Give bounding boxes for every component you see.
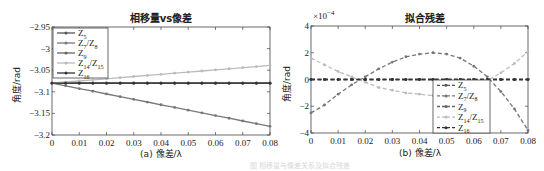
data-marker [486, 75, 489, 78]
x-tick-label: 0.04 [153, 138, 169, 148]
data-marker [214, 82, 217, 85]
x-tick-label: 0.02 [99, 138, 115, 148]
y-tick-label: −3.15 [29, 108, 50, 118]
data-marker [241, 66, 244, 69]
faint-caption: 图 相移量与像差关系及拟合残差 [250, 161, 350, 170]
data-marker [513, 78, 516, 81]
figure: 相移量vs像差 −2.95−3−3.05−3.1−3.15−3.2 00.010… [0, 0, 544, 171]
data-marker [132, 98, 135, 101]
data-marker [119, 95, 122, 98]
data-marker [200, 70, 203, 73]
data-marker [350, 75, 353, 78]
data-marker [200, 111, 203, 114]
right-series [310, 50, 530, 132]
data-marker [418, 93, 421, 96]
data-marker [499, 71, 502, 74]
data-marker [323, 63, 326, 66]
data-marker [187, 82, 190, 85]
data-marker [255, 65, 258, 68]
y-tick-label: −2.95 [29, 22, 50, 32]
data-marker [527, 50, 530, 53]
data-marker [173, 72, 176, 75]
data-marker [377, 86, 380, 89]
x-tick-label: 0.02 [357, 136, 373, 146]
data-marker [214, 114, 217, 117]
data-marker [160, 73, 163, 76]
data-marker [459, 57, 462, 60]
data-marker [173, 106, 176, 109]
data-marker [91, 90, 94, 93]
data-marker [269, 64, 272, 67]
data-marker [350, 78, 353, 81]
data-marker [187, 71, 190, 74]
series-line-z7-z8 [311, 53, 528, 131]
x-tick-label: 0.07 [493, 136, 509, 146]
y-tick-label: −3.05 [29, 65, 50, 75]
data-marker [377, 67, 380, 70]
data-marker [472, 65, 475, 68]
right-chart-title: 拟合残差 [405, 12, 445, 24]
data-marker [391, 78, 394, 81]
data-marker [310, 78, 313, 81]
x-tick-label: 0.06 [208, 138, 224, 148]
data-marker [310, 112, 313, 115]
left-chart: 相移量vs像差 −2.95−3−3.05−3.1−3.15−3.2 00.010… [11, 12, 278, 159]
data-marker [255, 122, 258, 125]
x-tick-label: 0.01 [330, 136, 346, 146]
x-tick-label: 0.08 [262, 138, 278, 148]
x-tick-label: 0 [309, 136, 314, 146]
left-x-axis-label: (a) 像差/λ [140, 148, 182, 159]
data-marker [527, 78, 530, 81]
data-marker [391, 89, 394, 92]
data-marker [350, 83, 353, 86]
right-chart: 拟合残差 ×10−4 420−2−4 00.010.020.030.040.05… [281, 9, 536, 158]
data-marker [255, 82, 258, 85]
data-marker [228, 117, 231, 120]
data-marker [132, 75, 135, 78]
data-marker [377, 78, 380, 81]
y-tick-label: 0 [305, 75, 310, 85]
x-tick-label: 0.03 [385, 136, 401, 146]
x-tick-label: 0.04 [412, 136, 428, 146]
data-marker [310, 57, 313, 60]
left-chart-title: 相移量vs像差 [130, 12, 192, 24]
data-marker [200, 82, 203, 85]
data-marker [445, 53, 448, 56]
data-marker [91, 78, 94, 81]
data-marker [499, 90, 502, 93]
data-marker [187, 109, 190, 112]
x-tick-label: 0.05 [180, 138, 196, 148]
left-legend: Z5Z7/Z8Z9Z14/Z15Z16 [53, 28, 108, 80]
data-marker [146, 101, 149, 104]
x-tick-label: 0.05 [439, 136, 455, 146]
x-tick-label: 0.07 [235, 138, 251, 148]
data-marker [214, 68, 217, 71]
data-marker [418, 53, 421, 56]
data-marker [391, 61, 394, 64]
data-marker [405, 91, 408, 94]
data-marker [91, 82, 94, 85]
data-marker [323, 104, 326, 107]
data-marker [64, 82, 67, 85]
right-x-axis-label: (b) 像差/λ [399, 147, 442, 158]
data-marker [364, 78, 367, 81]
data-marker [119, 82, 122, 85]
data-marker [173, 82, 176, 85]
x-tick-label: 0.06 [466, 136, 482, 146]
data-marker [269, 125, 272, 128]
data-marker [78, 82, 81, 85]
y-tick-label: 2 [305, 48, 310, 58]
left-y-axis-label: 角度/rad [11, 67, 22, 103]
y-tick-label: −3.1 [34, 87, 50, 97]
data-marker [241, 120, 244, 123]
y-tick-label: 4 [305, 21, 310, 31]
data-marker [499, 78, 502, 81]
data-marker [337, 78, 340, 81]
data-marker [160, 103, 163, 106]
data-marker [513, 108, 516, 111]
data-marker [132, 82, 135, 85]
data-marker [228, 82, 231, 85]
data-marker [513, 62, 516, 65]
data-marker [119, 76, 122, 79]
y-tick-label: −2 [299, 101, 309, 111]
